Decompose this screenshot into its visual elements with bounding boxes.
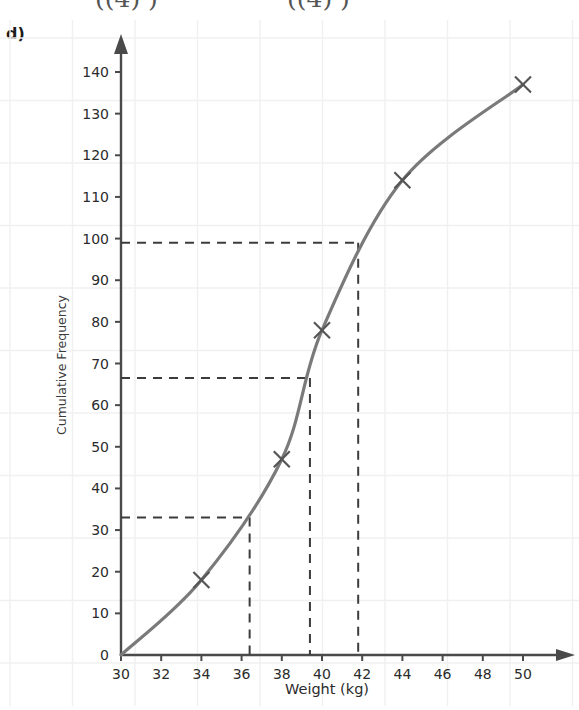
y-tick-label: 10 (91, 605, 109, 621)
marker-layer (193, 76, 531, 588)
y-tick-label: 100 (82, 231, 109, 247)
x-tick-label: 48 (474, 666, 492, 682)
x-tick-label: 42 (353, 666, 371, 682)
y-tick-label: 140 (82, 64, 109, 80)
y-axis-title: Cumulative Frequency (54, 294, 69, 434)
y-tick-label: 110 (82, 189, 109, 205)
data-point-marker (274, 451, 290, 467)
data-point-marker (394, 172, 410, 188)
x-tick-label: 50 (514, 666, 532, 682)
y-tick-label: 120 (82, 147, 109, 163)
x-tick-label: 34 (192, 666, 210, 682)
y-tick-label: 60 (91, 397, 109, 413)
y-tick-label: 20 (91, 564, 109, 580)
y-tick-label: 130 (82, 106, 109, 122)
y-tick-label: 90 (91, 272, 109, 288)
x-tick-label: 30 (112, 666, 130, 682)
x-tick-label: 32 (152, 666, 170, 682)
ticks-layer (115, 72, 523, 661)
y-tick-label: 0 (100, 647, 109, 663)
y-tick-label: 50 (91, 439, 109, 455)
axes-layer (114, 34, 575, 661)
x-tick-label: 40 (313, 666, 331, 682)
data-point-marker (515, 76, 531, 92)
x-tick-label: 38 (273, 666, 291, 682)
chart-page: ((4) ) ((4) ) d) 01020304050607080901001… (0, 0, 579, 710)
x-tick-label: 44 (393, 666, 411, 682)
y-tick-label: 70 (91, 356, 109, 372)
grid-layer (0, 20, 579, 706)
cumulative-frequency-chart: 0102030405060708090100110120130140303234… (0, 0, 579, 710)
data-point-marker (193, 572, 209, 588)
x-tick-label: 36 (233, 666, 251, 682)
x-tick-label: 46 (434, 666, 452, 682)
x-axis-title: Weight (kg) (285, 681, 369, 697)
y-tick-label: 80 (91, 314, 109, 330)
y-tick-label: 40 (91, 480, 109, 496)
y-tick-label: 30 (91, 522, 109, 538)
